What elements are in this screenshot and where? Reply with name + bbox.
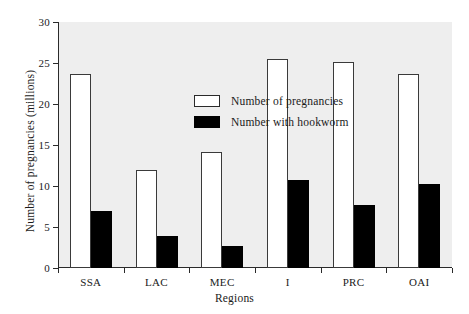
bar-prc-hookworm xyxy=(354,205,375,268)
filled-rect-icon xyxy=(194,116,220,128)
x-tick-label-ssa: SSA xyxy=(58,276,124,288)
legend-entry-hookworm: Number with hookworm xyxy=(194,111,349,132)
open-rect-icon xyxy=(194,95,220,107)
bar-chart-figure: Number of pregnancies (millions) 0510152… xyxy=(0,0,469,314)
bar-lac-pregnancies xyxy=(136,170,157,268)
x-tick-mark xyxy=(452,268,453,273)
x-tick-mark xyxy=(255,268,256,273)
plot-area: Number of pregnancies Number with hookwo… xyxy=(58,22,452,268)
bar-oai-hookworm xyxy=(419,184,440,268)
x-tick-label-prc: PRC xyxy=(321,276,387,288)
x-axis-title: Regions xyxy=(0,292,469,304)
x-tick-mark xyxy=(189,268,190,273)
x-tick-label-mec: MEC xyxy=(189,276,255,288)
x-tick-mark xyxy=(386,268,387,273)
bar-ssa-hookworm xyxy=(91,211,112,268)
y-tick-label: 30 xyxy=(39,14,50,30)
y-tick-label: 15 xyxy=(39,137,50,153)
y-axis-line xyxy=(58,22,59,268)
y-tick-label: 5 xyxy=(44,219,50,235)
y-tick-label: 25 xyxy=(39,55,50,71)
x-tick-label-lac: LAC xyxy=(124,276,190,288)
chart-legend: Number of pregnancies Number with hookwo… xyxy=(194,90,349,132)
legend-label-hookworm: Number with hookworm xyxy=(231,116,349,128)
y-tick-label: 0 xyxy=(44,260,50,276)
legend-label-pregnancies: Number of pregnancies xyxy=(231,95,343,107)
bar-oai-pregnancies xyxy=(398,74,419,268)
legend-entry-pregnancies: Number of pregnancies xyxy=(194,90,349,111)
x-tick-label-oai: OAI xyxy=(386,276,452,288)
x-tick-mark xyxy=(124,268,125,273)
bar-ssa-pregnancies xyxy=(70,74,91,268)
y-axis-title: Number of pregnancies (millions) xyxy=(24,28,36,274)
x-tick-label-i: I xyxy=(255,276,321,288)
y-tick-label: 10 xyxy=(39,178,50,194)
bar-i-hookworm xyxy=(288,180,309,268)
x-tick-mark xyxy=(321,268,322,273)
x-tick-mark xyxy=(58,268,59,273)
bar-lac-hookworm xyxy=(157,236,178,268)
bar-mec-pregnancies xyxy=(201,152,222,268)
bar-mec-hookworm xyxy=(222,246,243,268)
y-tick-label: 20 xyxy=(39,96,50,112)
